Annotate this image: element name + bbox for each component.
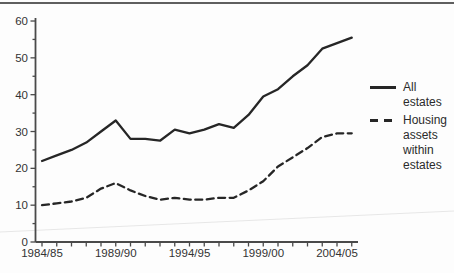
- x-tick-label-1994-95: 1994/95: [169, 247, 211, 259]
- y-tick-label-50: 50: [15, 52, 28, 64]
- y-tick-label-40: 40: [15, 89, 28, 101]
- dashed-line-swatch-icon: [370, 119, 396, 122]
- legend-label-all-estates: All estates: [403, 80, 453, 110]
- y-tick-label-60: 60: [15, 15, 28, 27]
- scan-artifact-line: [0, 211, 454, 232]
- solid-line-swatch-icon: [370, 86, 396, 89]
- y-tick-label-10: 10: [15, 199, 28, 211]
- x-tick-label-1999-00: 1999/00: [242, 247, 284, 259]
- chart-legend: All estates Housing assets within estate…: [370, 80, 454, 173]
- line-chart-figure: 01020304050601984/851989/901994/951999/0…: [0, 0, 454, 273]
- report-chart-page: 01020304050601984/851989/901994/951999/0…: [0, 0, 454, 273]
- legend-item-all-estates: All estates: [370, 80, 454, 110]
- x-tick-label-1989-90: 1989/90: [95, 247, 137, 259]
- y-tick-label-30: 30: [15, 126, 28, 138]
- legend-label-housing-assets: Housing assets within estates: [403, 113, 453, 173]
- series-line-all-estates: [42, 38, 352, 161]
- y-tick-label-20: 20: [15, 162, 28, 174]
- x-tick-label-2004-05: 2004/05: [316, 247, 358, 259]
- x-tick-label-1984-85: 1984/85: [21, 247, 63, 259]
- series-line-housing-assets-within-estates: [42, 133, 352, 205]
- legend-item-housing-assets: Housing assets within estates: [370, 113, 454, 173]
